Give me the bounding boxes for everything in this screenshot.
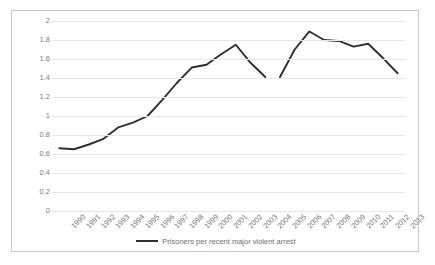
x-axis-tick-label: 1998 [188,213,205,230]
x-axis-tick-label: 1994 [129,213,146,230]
gridline [52,21,405,22]
chart-frame: 21.81.61.41.210.80.60.40.20 199019911992… [11,10,419,252]
gridline [52,154,405,155]
x-axis-tick-label: 1997 [173,213,190,230]
gridline [52,116,405,117]
gridline [52,135,405,136]
gridline [52,173,405,174]
y-axis-tick-label: 0.8 [24,131,50,139]
legend-line-swatch [136,240,158,243]
x-axis-tick-label: 2011 [379,213,396,230]
y-axis-tick-label: 1 [24,112,50,120]
x-axis-tick-label: 2001 [232,213,249,230]
chart-legend: Prisoners per recent major violent arres… [12,233,420,249]
x-axis-tick-label: 2005 [291,213,308,230]
y-axis: 21.81.61.41.210.80.60.40.20 [20,21,50,211]
y-axis-tick-label: 0.4 [24,169,50,177]
gridline [52,59,405,60]
x-axis-tick-label: 1991 [85,213,102,230]
x-axis-tick-label: 1995 [144,213,161,230]
x-axis-tick-label: 2002 [247,213,264,230]
x-axis-tick-label: 2013 [409,213,426,230]
gridline [52,78,405,79]
y-axis-tick-label: 1.2 [24,93,50,101]
y-axis-tick-label: 1.4 [24,74,50,82]
gridline [52,97,405,98]
y-axis-tick-label: 0 [24,207,50,215]
y-axis-tick-label: 0.6 [24,150,50,158]
y-axis-tick-label: 1.6 [24,55,50,63]
x-axis-tick-label: 2008 [335,213,352,230]
gridline [52,192,405,193]
x-axis-tick-label: 2012 [394,213,411,230]
x-axis-tick-label: 2004 [276,213,293,230]
gridline [52,40,405,41]
y-axis-tick-label: 2 [24,17,50,25]
legend-item-label: Prisoners per recent major violent arres… [162,237,295,246]
series-segment [280,31,398,77]
y-axis-tick-label: 0.2 [24,188,50,196]
plot-area [52,21,405,211]
y-axis-tick-label: 1.8 [24,36,50,44]
x-axis-tick-label: 2009 [350,213,367,230]
